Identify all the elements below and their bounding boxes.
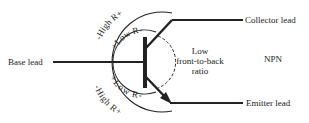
ratio-label-line3: ratio <box>192 66 209 76</box>
npn-label: NPN <box>264 54 283 64</box>
emitter-lead-label: Emitter lead <box>246 98 291 108</box>
ratio-label-line2: front-to-back <box>176 56 224 66</box>
low-r-top-label: +Low R- <box>109 25 142 51</box>
collector-lead-label: Collector lead <box>245 15 296 25</box>
base-lead-label: Base lead <box>8 57 43 67</box>
base-bar <box>143 37 147 88</box>
npn-transistor-diagram: -High R+ +Low R- +Low R- -High R+ Base l… <box>0 0 309 123</box>
ratio-label-line1: Low <box>192 46 209 56</box>
dashed-arc <box>158 36 176 88</box>
collector-line <box>146 20 172 48</box>
